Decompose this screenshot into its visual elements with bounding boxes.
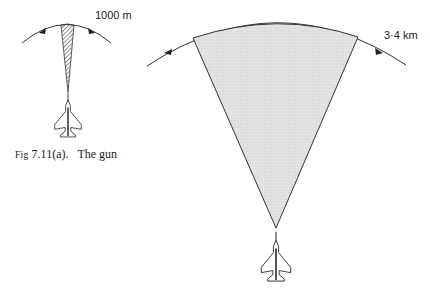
caption-prefix: Fig xyxy=(15,150,29,160)
gun-range-label: 1000 m xyxy=(95,9,132,21)
small-aircraft-icon xyxy=(55,92,82,137)
arrow-left-icon xyxy=(164,49,172,55)
large-aircraft-icon xyxy=(261,232,290,281)
caption-text: The gun xyxy=(77,147,117,161)
figure-caption: Fig 7.11(a). The gun xyxy=(15,147,117,162)
missile-fire-sector xyxy=(193,24,358,228)
caption-number: 7.11(a). xyxy=(32,147,69,161)
gun-fire-sector xyxy=(61,24,74,92)
missile-range-label: 3·4 km xyxy=(384,29,418,41)
gun-diagram xyxy=(22,24,111,137)
missile-diagram xyxy=(147,23,406,281)
